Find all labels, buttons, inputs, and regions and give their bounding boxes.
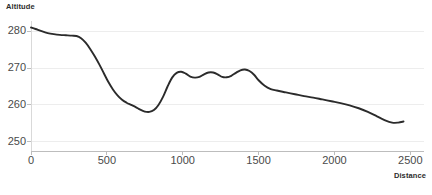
y-tick-label: 270: [0, 62, 26, 73]
x-tick-label: 1000: [163, 155, 203, 166]
x-tick-label: 1500: [239, 155, 279, 166]
plot-area: [0, 0, 432, 195]
axis-lines: [31, 21, 424, 151]
altitude-chart: Altitude 250260270280 050010001500200025…: [0, 0, 432, 195]
x-axis-title: Distance: [394, 171, 426, 180]
x-tick-marks: [27, 31, 410, 155]
x-tick-label: 0: [11, 155, 51, 166]
y-tick-label: 250: [0, 136, 26, 147]
page-footer: [0, 186, 432, 195]
x-tick-label: 2500: [390, 155, 430, 166]
altitude-line-series: [31, 28, 404, 123]
x-tick-label: 2000: [314, 155, 354, 166]
x-tick-label: 500: [87, 155, 127, 166]
y-tick-label: 260: [0, 99, 26, 110]
y-tick-label: 280: [0, 25, 26, 36]
